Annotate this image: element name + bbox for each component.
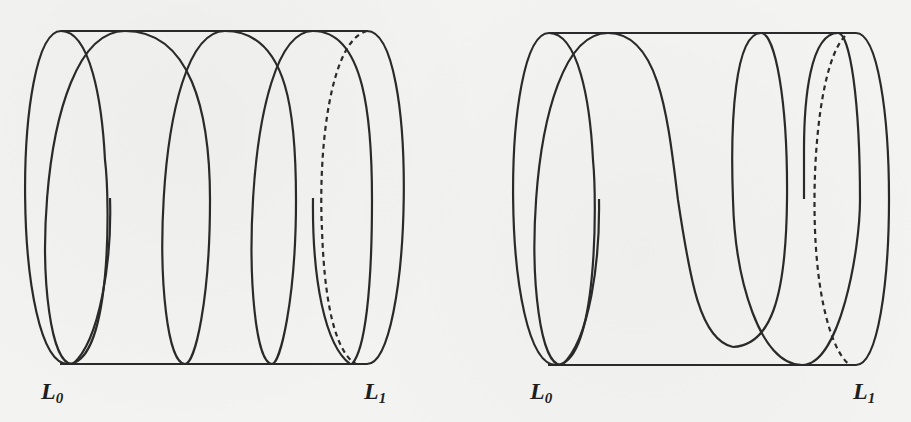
right-L0-base: L <box>530 378 545 404</box>
right-label-L0: L0 <box>530 379 552 406</box>
left-label-L0: L0 <box>41 379 63 406</box>
right-loop-L1-back <box>814 36 850 365</box>
right-loop-4 <box>802 33 860 365</box>
right-loop-L0 <box>513 33 595 365</box>
right-loop-2 <box>534 33 733 365</box>
left-panel <box>25 31 404 364</box>
left-L0-sub: 0 <box>56 390 64 406</box>
left-strand-L1 <box>313 198 350 364</box>
left-L0-base: L <box>41 378 56 404</box>
right-L0-sub: 0 <box>545 390 553 406</box>
diagram-canvas <box>0 0 911 422</box>
left-L1-base: L <box>364 378 379 404</box>
right-panel <box>513 33 889 365</box>
right-L1-sub: 1 <box>868 390 876 406</box>
left-L1-sub: 1 <box>379 390 387 406</box>
left-loop-L0 <box>25 31 107 364</box>
left-loop-2 <box>45 31 210 364</box>
right-label-L1: L1 <box>853 379 875 406</box>
left-label-L1: L1 <box>364 379 386 406</box>
left-loop-4 <box>252 31 372 364</box>
left-loop-3 <box>162 31 296 364</box>
right-loop-3 <box>732 33 802 365</box>
right-L1-base: L <box>853 378 868 404</box>
figure: L0 L1 L0 L1 <box>0 0 911 422</box>
